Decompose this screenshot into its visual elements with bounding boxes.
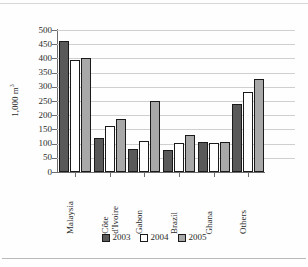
bar-chart-figure: 1,000 m3 500450400350300250200150100500 … — [0, 0, 308, 267]
y-axis-tick-label: 100 — [26, 139, 52, 148]
bar-group — [128, 30, 160, 172]
legend-item: 2003 — [102, 233, 131, 242]
x-axis-tick-labels: MalaysiaCôte d'IvoireGabonBrazilGhanaOth… — [0, 176, 308, 234]
legend-label: 2005 — [189, 233, 207, 242]
bar — [81, 58, 91, 172]
bar-group — [163, 30, 195, 172]
bar — [232, 104, 242, 172]
bar-group — [94, 30, 126, 172]
chart-legend: 200320042005 — [0, 233, 308, 242]
x-axis-tick-label: Brazil — [169, 212, 179, 234]
bar — [150, 101, 160, 172]
y-axis-title-superscript: 3 — [9, 84, 15, 87]
bar — [254, 79, 264, 172]
x-axis-tick-label: Ghana — [204, 211, 214, 235]
bar-group — [232, 30, 264, 172]
legend-label: 2004 — [151, 233, 169, 242]
bar — [139, 141, 149, 172]
bar — [163, 150, 173, 172]
x-axis-tick-label: Côte d'Ivoire — [100, 206, 120, 234]
y-axis-tick-label: 500 — [26, 26, 52, 35]
bar — [105, 126, 115, 172]
bar — [94, 138, 104, 172]
figure-bottom-rule — [2, 258, 306, 259]
legend-swatch — [140, 234, 148, 242]
y-axis-tick-label: 200 — [26, 111, 52, 120]
y-axis-tick-label: 300 — [26, 82, 52, 91]
y-axis-tick-label: 400 — [26, 54, 52, 63]
y-axis-tick-label: 250 — [26, 97, 52, 106]
x-axis-tick-label: Others — [238, 210, 248, 234]
bar — [185, 135, 195, 172]
y-axis-tick-label: 450 — [26, 40, 52, 49]
bar — [174, 143, 184, 172]
bar-group — [59, 30, 91, 172]
legend-item: 2004 — [140, 233, 169, 242]
y-axis-tick-label: 150 — [26, 125, 52, 134]
legend-item: 2005 — [178, 233, 207, 242]
y-axis-title-text: 1,000 m — [10, 87, 20, 117]
bar — [198, 142, 208, 172]
bar — [128, 149, 138, 172]
y-axis-title: 1,000 m3 — [9, 71, 20, 131]
bar — [220, 142, 230, 172]
x-axis-tick-label: Malaysia — [65, 201, 75, 234]
bar — [70, 60, 80, 172]
bar — [116, 119, 126, 172]
y-axis-tick-label: 50 — [26, 153, 52, 162]
bar — [59, 41, 69, 172]
y-axis-tick-label: 350 — [26, 68, 52, 77]
legend-label: 2003 — [113, 233, 131, 242]
legend-swatch — [102, 234, 110, 242]
x-axis-tick-label: Gabon — [134, 210, 144, 234]
bar — [209, 143, 219, 172]
bar-group — [198, 30, 230, 172]
bar — [243, 92, 253, 172]
legend-swatch — [178, 234, 186, 242]
plot-area — [57, 30, 265, 172]
